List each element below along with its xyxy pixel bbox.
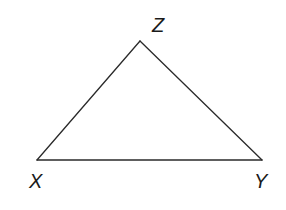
triangle-diagram: Z X Y bbox=[0, 0, 286, 210]
side-zx bbox=[37, 41, 140, 160]
vertex-label-x: X bbox=[29, 171, 42, 191]
triangle-svg bbox=[0, 0, 286, 210]
vertex-label-z: Z bbox=[152, 15, 164, 35]
vertex-label-y: Y bbox=[254, 171, 267, 191]
side-yz bbox=[140, 41, 262, 160]
